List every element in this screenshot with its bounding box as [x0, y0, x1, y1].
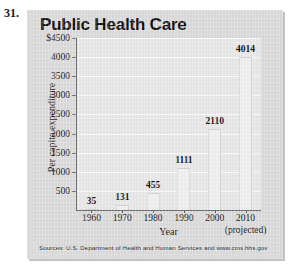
chart-title: Public Health Care: [40, 15, 187, 35]
gridline: [76, 134, 261, 135]
x-axis-tick-label: 1970: [113, 213, 132, 223]
y-axis-line: [76, 38, 77, 210]
gridline: [76, 172, 261, 173]
x-axis-line: [76, 210, 261, 211]
bar-value-label: 1111: [175, 155, 192, 165]
y-axis-tick: [72, 153, 76, 154]
plot-area: [76, 38, 261, 210]
y-axis-tick-label: 3500: [51, 71, 70, 81]
plot-wrapper: 5001000150020002500300035004000$4500 351…: [76, 38, 261, 215]
x-axis-tick-label: 1980: [144, 213, 163, 223]
y-axis-tick-label: $4500: [46, 33, 70, 43]
x-axis-tick-label: 2010: [236, 213, 255, 223]
gridline: [76, 38, 261, 39]
gridline: [76, 191, 261, 192]
source-note: Sources: U.S. Department of Health and H…: [39, 244, 267, 251]
y-axis-tick-label: 1000: [51, 167, 70, 177]
y-axis-tick: [72, 76, 76, 77]
bar: [208, 129, 221, 210]
bar-value-label: 35: [87, 196, 97, 206]
y-axis-tick: [72, 134, 76, 135]
y-axis-tick-label: 1500: [51, 148, 70, 158]
projected-annotation: (projected): [225, 225, 267, 235]
y-axis-tick: [72, 114, 76, 115]
bar-value-label: 455: [146, 180, 160, 190]
y-axis-tick-label: 500: [56, 186, 70, 196]
bar: [177, 168, 190, 210]
bar: [147, 193, 160, 210]
y-axis-tick: [72, 95, 76, 96]
y-axis-tick: [72, 38, 76, 39]
y-axis-tick-label: 3000: [51, 90, 70, 100]
bar-value-label: 131: [115, 192, 129, 202]
y-axis-tick-label: 2500: [51, 109, 70, 119]
figure-card: Public Health Care Per capita expenditur…: [27, 10, 283, 259]
gridline: [76, 57, 261, 58]
bar: [239, 57, 252, 210]
y-axis-tick: [72, 191, 76, 192]
problem-number: 31.: [4, 6, 19, 21]
gridline: [76, 114, 261, 115]
gridline: [76, 76, 261, 77]
y-axis-tick: [72, 172, 76, 173]
y-axis-tick-label: 4000: [51, 52, 70, 62]
bar-value-label: 2110: [206, 116, 224, 126]
gridline: [76, 153, 261, 154]
y-axis-tick: [72, 57, 76, 58]
x-axis-tick-label: 2000: [205, 213, 224, 223]
x-axis-tick-label: 1960: [82, 213, 101, 223]
y-axis-tick-label: 2000: [51, 129, 70, 139]
bar-value-label: 4014: [236, 44, 255, 54]
x-axis-tick-label: 1990: [174, 213, 193, 223]
gridline: [76, 95, 261, 96]
